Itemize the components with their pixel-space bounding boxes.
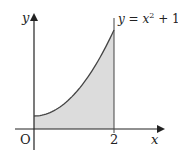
tick-label-2: 2 xyxy=(110,132,118,147)
function-label: y = x2 + 1 xyxy=(117,11,178,26)
y-axis-label: y xyxy=(21,10,30,25)
diagram: y O 2 x y = x2 + 1 xyxy=(0,0,178,159)
origin-label: O xyxy=(20,132,31,147)
function-label-eq: = xyxy=(125,12,143,26)
x-axis-label: x xyxy=(151,132,159,147)
function-label-rest: + 1 xyxy=(154,12,178,26)
